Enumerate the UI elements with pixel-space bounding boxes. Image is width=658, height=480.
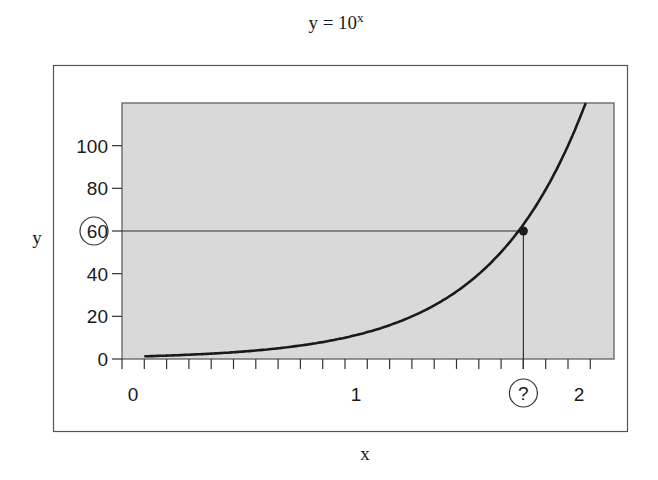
- chart-title-exponent: x: [357, 10, 364, 25]
- chart: y = 10x 012020406080100 ? y x: [0, 0, 658, 480]
- x-tick-label: 0: [128, 384, 139, 405]
- y-tick-label: 80: [87, 178, 108, 199]
- y-tick-label: 40: [87, 264, 108, 285]
- y-tick-label: 100: [76, 136, 108, 157]
- chart-title: y = 10x: [308, 10, 364, 33]
- y-axis-label: y: [32, 227, 42, 248]
- x-tick-label: 1: [351, 384, 362, 405]
- x-axis-label: x: [360, 443, 370, 464]
- x-tick-label: 2: [574, 384, 585, 405]
- y-tick-label: 20: [87, 306, 108, 327]
- highlight-point: [519, 227, 528, 236]
- unknown-x-label: ?: [518, 383, 529, 404]
- chart-title-base: y = 10: [308, 12, 357, 33]
- y-tick-label: 60: [87, 221, 108, 242]
- y-tick-label: 0: [97, 349, 108, 370]
